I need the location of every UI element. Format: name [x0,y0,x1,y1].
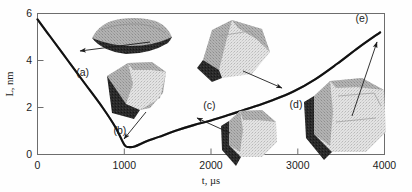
plot-svg: 0 2 4 6 L, nm 0 1000 2000 3000 4000 t, µ… [0,0,412,192]
panel-label-e: (e) [355,12,368,24]
y-tick-label-0: 0 [26,148,32,160]
x-tick-label-4000: 4000 [373,159,397,171]
figure-container: 0 2 4 6 L, nm 0 1000 2000 3000 4000 t, µ… [0,0,412,192]
x-tick-label-3000: 3000 [286,159,310,171]
nanocrystal-snapshot-c [221,110,277,166]
panel-label-d: (d) [290,98,303,110]
panel-label-b: (b) [113,124,126,136]
x-axis-title: t, µs [202,175,220,186]
y-axis-title: L, nm [4,71,15,96]
nanocrystal-snapshot-b [107,62,166,119]
y-tick-label-4: 4 [26,54,32,66]
y-axis-tick-labels: 0 2 4 6 [26,7,32,160]
x-tick-label-1000: 1000 [113,159,137,171]
nanocrystal-snapshot-d [197,20,270,82]
panel-label-c: (c) [203,99,215,111]
leader-arrow-d [243,71,282,88]
nanocrystal-snapshot-a [92,18,172,54]
x-tick-label-0: 0 [35,159,41,171]
y-axis-ticks [38,14,44,155]
x-tick-label-2000: 2000 [199,159,223,171]
panel-label-a: (a) [76,66,89,78]
x-axis-tick-labels: 0 1000 2000 3000 4000 [35,159,397,171]
y-tick-label-2: 2 [26,101,32,113]
nanocrystal-snapshot-e [304,78,386,160]
y-tick-label-6: 6 [26,7,32,19]
